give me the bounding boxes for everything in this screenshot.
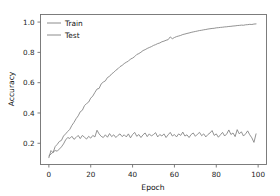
legend-label-test: Test bbox=[64, 31, 80, 40]
accuracy-vs-epoch-line-chart: 020406080100 0.20.40.60.81.0 Train Test … bbox=[0, 0, 280, 196]
y-tick-label: 1.0 bbox=[23, 18, 35, 27]
x-tick-label: 100 bbox=[251, 170, 265, 179]
x-tick-label: 40 bbox=[128, 170, 138, 179]
x-tick-label: 60 bbox=[170, 170, 180, 179]
y-tick-label: 0.6 bbox=[23, 78, 35, 87]
figure-background bbox=[0, 0, 280, 196]
chart-figure: 020406080100 0.20.40.60.81.0 Train Test … bbox=[0, 0, 280, 196]
x-tick-label: 80 bbox=[212, 170, 222, 179]
y-tick-label: 0.4 bbox=[23, 109, 35, 118]
legend-label-train: Train bbox=[64, 19, 83, 28]
y-tick-label: 0.2 bbox=[23, 139, 34, 148]
x-tick-label: 0 bbox=[47, 170, 52, 179]
y-tick-label: 0.8 bbox=[23, 48, 35, 57]
y-axis-title: Accuracy bbox=[7, 71, 16, 106]
x-tick-label: 20 bbox=[86, 170, 96, 179]
x-axis-title: Epoch bbox=[141, 183, 164, 192]
